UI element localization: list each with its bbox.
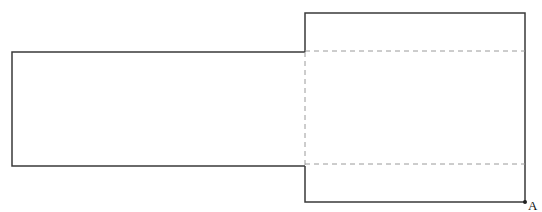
- left-rectangle: [12, 52, 305, 166]
- right-panel: [305, 13, 525, 202]
- point-a-label: A: [528, 198, 538, 212]
- box-net-diagram: A: [0, 0, 542, 212]
- point-a-dot: [523, 200, 527, 204]
